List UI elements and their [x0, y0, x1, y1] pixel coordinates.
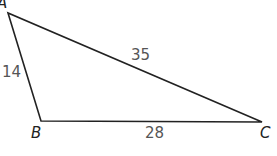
side-label-ac: 35: [131, 46, 150, 64]
triangle-abc: [8, 13, 262, 122]
vertex-label-c: C: [260, 124, 271, 142]
vertex-label-a: A: [0, 0, 7, 12]
triangle-diagram: A B C 14 35 28: [0, 0, 277, 156]
side-label-ab: 14: [2, 63, 21, 81]
vertex-label-b: B: [31, 124, 41, 142]
side-label-bc: 28: [145, 124, 164, 142]
